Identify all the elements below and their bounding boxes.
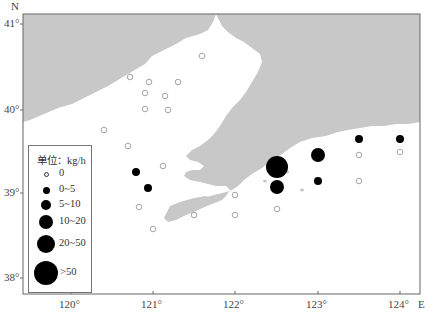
station-marker-zero [232, 192, 238, 198]
legend-label: 0~5 [59, 183, 75, 194]
latitude-label: 39° [4, 186, 19, 198]
station-marker-zero [274, 206, 280, 212]
station-marker-filled [396, 135, 404, 143]
filled-circle-icon [41, 200, 51, 210]
station-marker-zero [397, 149, 403, 155]
station-marker-zero [146, 79, 152, 85]
station-marker-zero [356, 152, 362, 158]
station-marker-zero [165, 107, 171, 113]
station-marker-filled [144, 184, 152, 192]
filled-circle-icon [37, 235, 55, 253]
land-peninsula-tip [166, 196, 214, 218]
station-marker-zero [356, 178, 362, 184]
latitude-label: 40° [4, 103, 19, 115]
filled-circle-icon [43, 187, 50, 194]
station-marker-zero [160, 163, 166, 169]
longitude-label: 121° [141, 298, 162, 310]
island [263, 180, 267, 183]
latitude-label: 38° [4, 271, 19, 283]
longitude-label: 120° [59, 298, 80, 310]
station-marker-zero [125, 143, 131, 149]
station-marker-zero [142, 106, 148, 112]
legend: 单位：kg/h 00~55~1010~2020~50>50 [28, 145, 92, 293]
legend-label: 5~10 [59, 198, 80, 209]
legend-item: >50 [29, 263, 93, 283]
land-northwest [23, 14, 216, 122]
filled-circle-icon [34, 261, 58, 285]
station-marker-zero [101, 127, 107, 133]
hollow-circle-icon [44, 172, 49, 177]
station-marker-zero [191, 212, 197, 218]
legend-item: 10~20 [29, 212, 93, 232]
station-marker-zero [199, 53, 205, 59]
longitude-label: 122° [223, 298, 244, 310]
station-marker-filled [311, 148, 325, 162]
station-marker-zero [150, 226, 156, 232]
legend-label: 10~20 [59, 215, 86, 226]
station-marker-zero [127, 74, 133, 80]
station-marker-zero [175, 79, 181, 85]
station-marker-filled [270, 180, 284, 194]
island [300, 189, 304, 192]
station-marker-filled [314, 177, 322, 185]
station-marker-zero [162, 93, 168, 99]
station-marker-filled [266, 156, 288, 178]
legend-label: >50 [60, 266, 76, 277]
station-marker-filled [132, 168, 140, 176]
filled-circle-icon [39, 215, 53, 229]
legend-item: 20~50 [29, 234, 93, 254]
land-northeast [164, 14, 420, 222]
station-marker-filled [355, 135, 363, 143]
east-label: E [418, 298, 425, 310]
north-label: N [11, 0, 19, 12]
longitude-label: 124° [388, 298, 409, 310]
station-marker-zero [136, 204, 142, 210]
latitude-label: 41° [4, 17, 19, 29]
longitude-label: 123° [306, 298, 327, 310]
legend-label: 20~50 [59, 237, 86, 248]
station-marker-zero [232, 212, 238, 218]
station-marker-zero [142, 90, 148, 96]
legend-label: 0 [59, 167, 64, 178]
